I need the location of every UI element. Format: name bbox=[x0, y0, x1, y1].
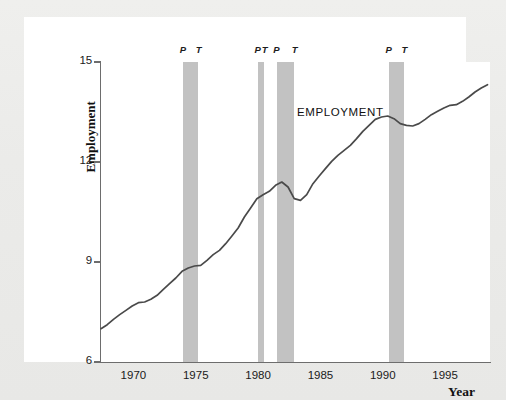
x-tick-label: 1980 bbox=[233, 369, 283, 381]
employment-line-chart bbox=[101, 62, 490, 362]
series-label: EMPLOYMENT bbox=[297, 106, 384, 118]
y-tick-mark bbox=[94, 261, 101, 262]
chart-plot-card: Employment (millions of people) 691215 1… bbox=[24, 17, 466, 362]
x-axis-title: Year bbox=[448, 384, 475, 400]
recession-peak-label: P bbox=[255, 44, 261, 55]
y-tick-label: 12 bbox=[62, 154, 92, 166]
x-tick-label: 1985 bbox=[295, 369, 345, 381]
y-tick-mark bbox=[94, 61, 101, 62]
y-tick-mark bbox=[94, 361, 101, 362]
y-tick-label: 6 bbox=[62, 354, 92, 366]
recession-trough-label: T bbox=[196, 44, 202, 55]
recession-peak-label: P bbox=[180, 44, 186, 55]
x-axis-line bbox=[100, 362, 491, 363]
x-tick-label: 1975 bbox=[171, 369, 221, 381]
plot-area: EMPLOYMENT bbox=[101, 62, 490, 362]
recession-peak-label: P bbox=[273, 44, 279, 55]
x-tick-label: 1995 bbox=[420, 369, 470, 381]
recession-trough-label: T bbox=[262, 44, 268, 55]
recession-peak-label: P bbox=[386, 44, 392, 55]
chart-figure: Employment (millions of people) 691215 1… bbox=[0, 0, 506, 400]
y-tick-label: 9 bbox=[62, 254, 92, 266]
recession-trough-label: T bbox=[292, 44, 298, 55]
y-tick-mark bbox=[94, 161, 101, 162]
employment-series-line bbox=[101, 85, 488, 329]
y-tick-label: 15 bbox=[62, 54, 92, 66]
recession-trough-label: T bbox=[401, 44, 407, 55]
x-tick-label: 1990 bbox=[358, 369, 408, 381]
x-tick-label: 1970 bbox=[108, 369, 158, 381]
